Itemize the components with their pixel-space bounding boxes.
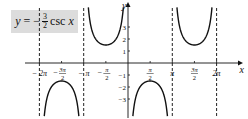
tick-text: − π [78,69,90,78]
x-axis-label: x [239,64,245,75]
y-tick-label: 1 [123,48,127,56]
tick-numerator: π [105,66,109,73]
x-tick-label: − π [78,69,90,78]
tick-labels: xy− 2π−3π2− π−π2π2π3π22π321−1−2−3 [32,0,245,104]
tick-denominator: 2 [61,74,64,81]
x-tick-label: −3π2 [53,66,66,81]
tick-minus: − [98,68,103,77]
y-axis-label: y [121,0,127,11]
y-tick-label: −2 [119,84,127,92]
tick-text: − 2π [32,69,48,78]
x-tick-label: − 2π [32,69,48,78]
tick-text: π [170,69,175,78]
x-tick-label: 3π2 [190,66,198,81]
tick-numerator: π [149,66,153,73]
tick-denominator: 2 [193,74,196,81]
tick-denominator: 2 [105,74,108,81]
x-tick-label: π2 [147,66,154,81]
x-tick-label: 2π [213,69,222,78]
y-tick-label: −3 [119,96,127,104]
tick-minus: − [53,68,58,77]
y-tick-label: 3 [123,24,127,32]
x-tick-label: π [170,69,175,78]
tick-numerator: 3π [58,66,66,73]
csc-graph: xy− 2π−3π2− π−π2π2π3π22π321−1−2−3 [0,0,248,119]
tick-text: 2π [213,69,222,78]
y-tick-label: 2 [123,36,127,44]
csc-branch-curve [177,7,212,45]
tick-denominator: 2 [149,74,152,81]
csc-branch-curve [88,7,123,45]
tick-numerator: 3π [190,66,198,73]
csc-branch-curve [133,81,168,116]
x-tick-label: −π2 [98,66,111,81]
y-tick-label: −1 [119,72,127,80]
csc-branch-curve [44,81,79,116]
